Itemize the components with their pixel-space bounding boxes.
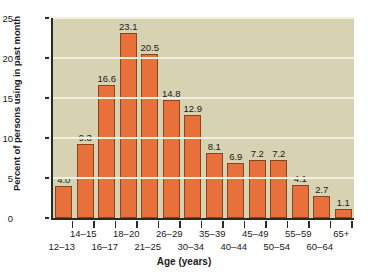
- y-tick-label: 10: [0, 133, 13, 144]
- x-tick-mark: [136, 221, 138, 228]
- bar: [292, 185, 309, 218]
- x-tick-label: 12–13: [49, 241, 75, 252]
- x-tick-label: 65+: [333, 228, 349, 239]
- bar-group: 14.8: [163, 18, 180, 218]
- bar: [55, 186, 72, 218]
- bar-group: 6.9: [227, 18, 244, 218]
- bar-group: 7.2: [249, 18, 266, 218]
- bar: [227, 163, 244, 218]
- y-tick-mark: [45, 177, 49, 179]
- x-tick-label: 21–25: [135, 241, 161, 252]
- x-tick-label: 26–29: [156, 228, 182, 239]
- y-tick-mark: [45, 97, 49, 99]
- x-tick-mark: [179, 221, 181, 228]
- bar-chart: Percent of persons using in past month 4…: [0, 0, 368, 276]
- bar-group: 2.7: [313, 18, 330, 218]
- y-tick-mark: [45, 17, 49, 19]
- x-tick-mark: [244, 221, 246, 228]
- bar-value-label: 8.1: [208, 141, 221, 152]
- bar-value-label: 20.5: [140, 42, 159, 53]
- bar: [249, 160, 266, 218]
- bar: [270, 160, 287, 218]
- x-tick-mark: [115, 221, 117, 228]
- bar-value-label: 7.2: [251, 148, 264, 159]
- gridline: [53, 17, 354, 19]
- y-tick-label: 25: [0, 13, 13, 24]
- bar: [141, 54, 158, 218]
- bar-value-label: 1.1: [337, 197, 350, 208]
- bar: [163, 100, 180, 218]
- bar-value-label: 12.9: [183, 103, 202, 114]
- x-tick-mark: [351, 221, 353, 228]
- x-tick-label: 16–17: [92, 241, 118, 252]
- gridline: [53, 177, 354, 179]
- bar-group: 23.1: [120, 18, 137, 218]
- y-tick-mark: [45, 137, 49, 139]
- bar-group: 4.0: [55, 18, 72, 218]
- x-tick-label: 30–34: [178, 241, 204, 252]
- x-tick-mark: [72, 221, 74, 228]
- bar-value-label: 23.1: [119, 21, 138, 32]
- plot-area: 4.09.316.623.120.514.812.98.16.97.27.24.…: [51, 18, 354, 220]
- bar: [335, 209, 352, 218]
- bar-group: 1.1: [335, 18, 352, 218]
- x-tick-mark: [93, 221, 95, 228]
- x-tick-label: 40–44: [221, 241, 247, 252]
- y-tick-mark: [45, 57, 49, 59]
- x-tick-label: 60–64: [307, 241, 333, 252]
- x-tick-mark: [158, 221, 160, 228]
- bar-group: 16.6: [98, 18, 115, 218]
- bar: [313, 196, 330, 218]
- y-tick-label: 20: [0, 53, 13, 64]
- y-tick-mark: [45, 217, 49, 219]
- bar-group: 4.1: [292, 18, 309, 218]
- bar-value-label: 6.9: [229, 151, 242, 162]
- y-tick-label: 15: [0, 93, 13, 104]
- bar-value-label: 7.2: [272, 148, 285, 159]
- bar-value-label: 4.0: [57, 174, 70, 185]
- x-tick-label: 50–54: [264, 241, 290, 252]
- bar-value-label: 16.6: [97, 73, 116, 84]
- bar: [206, 153, 223, 218]
- x-tick-mark: [265, 221, 267, 228]
- bar: [77, 144, 94, 218]
- bar: [98, 85, 115, 218]
- bar-group: 8.1: [206, 18, 223, 218]
- gridline: [53, 57, 354, 59]
- x-tick-label: 18–20: [113, 228, 139, 239]
- x-tick-mark: [201, 221, 203, 228]
- y-tick-label: 5: [0, 173, 13, 184]
- bar: [120, 33, 137, 218]
- x-tick-mark: [222, 221, 224, 228]
- bar-group: 12.9: [184, 18, 201, 218]
- bar: [184, 115, 201, 218]
- x-tick-label: 14–15: [70, 228, 96, 239]
- bars-layer: 4.09.316.623.120.514.812.98.16.97.27.24.…: [53, 18, 354, 218]
- x-tick-mark: [308, 221, 310, 228]
- x-axis-title: Age (years): [0, 256, 368, 267]
- gridline: [53, 97, 354, 99]
- x-tick-label: 45–49: [242, 228, 268, 239]
- x-tick-label: 55–59: [285, 228, 311, 239]
- x-tick-mark: [287, 221, 289, 228]
- x-tick-mark: [330, 221, 332, 228]
- bar-group: 20.5: [141, 18, 158, 218]
- bar-group: 7.2: [270, 18, 287, 218]
- gridline: [53, 137, 354, 139]
- bar-value-label: 2.7: [315, 184, 328, 195]
- y-tick-label: 0: [0, 213, 13, 224]
- bar-group: 9.3: [77, 18, 94, 218]
- x-tick-label: 35–39: [199, 228, 225, 239]
